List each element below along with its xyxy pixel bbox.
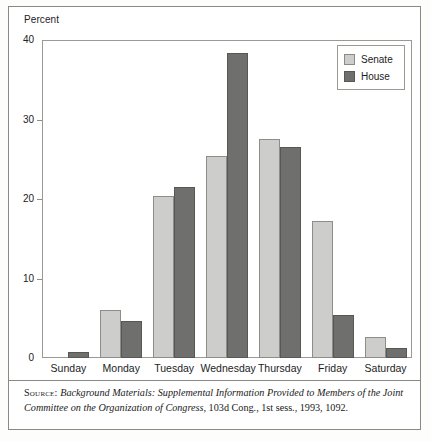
bar-house-sunday[interactable] — [68, 352, 89, 358]
source-label: Source: — [24, 387, 58, 398]
y-tick-label-40: 40 — [12, 34, 34, 45]
y-tick-label-10: 10 — [12, 273, 34, 284]
chart-plot: Percent 010203040 SundayMondayTuesdayWed… — [0, 0, 431, 441]
bar-senate-thursday[interactable] — [259, 139, 280, 358]
bar-senate-saturday[interactable] — [365, 337, 386, 358]
bar-group-wednesday — [206, 40, 248, 358]
bar-senate-monday[interactable] — [100, 310, 121, 358]
bar-senate-tuesday[interactable] — [153, 196, 174, 358]
y-tick-label-20: 20 — [12, 193, 34, 204]
legend-label-senate: Senate — [361, 54, 393, 65]
y-tick-label-30: 30 — [12, 114, 34, 125]
source-divider — [8, 380, 421, 381]
x-axis-label-saturday: Saturday — [359, 362, 412, 374]
bar-house-saturday[interactable] — [386, 348, 407, 358]
x-axis-label-sunday: Sunday — [42, 362, 95, 374]
bar-group-thursday — [259, 40, 301, 358]
legend-swatch-senate — [344, 54, 355, 65]
bar-house-wednesday[interactable] — [227, 53, 248, 358]
bar-house-friday[interactable] — [333, 315, 354, 358]
source-note: Source: Background Materials: Supplement… — [24, 386, 409, 415]
chart-legend: Senate House — [337, 45, 405, 90]
bar-group-sunday — [47, 40, 89, 358]
legend-item-house[interactable]: House — [344, 68, 404, 85]
bar-house-thursday[interactable] — [280, 147, 301, 358]
x-axis-label-wednesday: Wednesday — [201, 362, 254, 374]
y-tick-label-0: 0 — [12, 352, 34, 363]
x-axis-label-tuesday: Tuesday — [148, 362, 201, 374]
bar-group-tuesday — [153, 40, 195, 358]
x-axis-label-monday: Monday — [95, 362, 148, 374]
legend-item-senate[interactable]: Senate — [344, 51, 404, 68]
figure-container: Percent 010203040 SundayMondayTuesdayWed… — [0, 0, 431, 441]
x-axis-label-thursday: Thursday — [253, 362, 306, 374]
source-citation-tail: 103d Cong., 1st sess., 1993, 1092. — [206, 402, 348, 413]
legend-swatch-house — [344, 71, 355, 82]
y-axis-title: Percent — [24, 14, 59, 25]
x-axis-label-friday: Friday — [306, 362, 359, 374]
bar-senate-wednesday[interactable] — [206, 156, 227, 358]
bar-house-monday[interactable] — [121, 321, 142, 358]
bar-senate-friday[interactable] — [312, 221, 333, 358]
legend-label-house: House — [361, 71, 390, 82]
bar-house-tuesday[interactable] — [174, 187, 195, 358]
bar-group-monday — [100, 40, 142, 358]
